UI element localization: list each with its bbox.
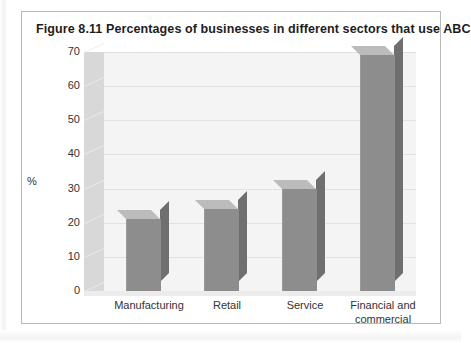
figure-container: Figure 8.11 Percentages of businesses in…	[21, 11, 441, 324]
bar-front-face	[282, 189, 317, 291]
y-axis-tick-label: 40	[46, 147, 80, 159]
bar-manufacturing	[126, 219, 160, 291]
bar-side-face	[238, 191, 247, 282]
wall-gridline-70	[84, 43, 104, 53]
y-axis-tick-label: 20	[46, 216, 80, 228]
wall-gridline-10	[84, 248, 104, 258]
bar-side-face	[316, 171, 325, 282]
bar-side-face	[394, 37, 403, 282]
bar-service	[282, 189, 316, 291]
y-axis-title: %	[27, 175, 37, 187]
bar-front-face	[360, 55, 395, 291]
wall-gridline-50	[84, 111, 104, 121]
page-edge-shading-left	[0, 0, 7, 343]
wall-gridline-30	[84, 180, 104, 190]
x-axis-label-financial-and-commercial: Financial andcommercial	[323, 298, 443, 326]
bar-front-face	[204, 209, 239, 291]
y-axis-ticks: 010203040506070	[44, 12, 80, 323]
bar-chart: 010203040506070 % ManufacturingRetailSer…	[22, 12, 440, 323]
bar-financial-and-commercial	[360, 55, 394, 291]
plot-floor	[84, 291, 416, 296]
wall-gridline-60	[84, 77, 104, 87]
bar-front-face	[126, 219, 161, 291]
x-axis-labels: ManufacturingRetailServiceFinancial andc…	[84, 298, 434, 338]
y-axis-tick-label: 60	[46, 79, 80, 91]
bar-side-face	[160, 201, 169, 282]
x-axis-label-line: commercial	[323, 312, 443, 326]
y-axis-tick-label: 30	[46, 182, 80, 194]
wall-gridline-40	[84, 146, 104, 156]
y-axis-tick-label: 10	[46, 250, 80, 262]
y-axis-tick-label: 70	[46, 45, 80, 57]
wall-gridline-20	[84, 214, 104, 224]
bar-retail	[204, 209, 238, 291]
y-axis-tick-label: 50	[46, 113, 80, 125]
x-axis-label-line: Financial and	[323, 298, 443, 312]
chart-left-wall	[84, 52, 104, 291]
y-axis-tick-label: 0	[46, 284, 80, 296]
